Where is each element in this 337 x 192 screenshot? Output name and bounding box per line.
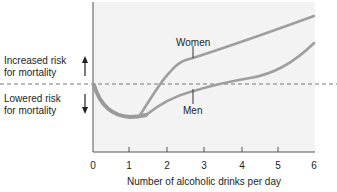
x-tick-label-2: 2: [164, 160, 170, 171]
x-tick-label-4: 4: [239, 160, 245, 171]
x-tick-label-0: 0: [90, 160, 96, 171]
x-tick-label-5: 5: [275, 160, 281, 171]
lowered-risk-label-line2: for mortality: [4, 105, 56, 117]
x-axis-title: Number of alcoholic drinks per day: [127, 176, 281, 188]
women-series-label: Women: [176, 37, 210, 49]
x-tick-label-1: 1: [126, 160, 132, 171]
x-tick-label-3: 3: [201, 160, 207, 171]
men-series-label: Men: [183, 105, 202, 117]
plot-area: [93, 2, 315, 152]
up-arrow-icon: [82, 56, 88, 76]
lowered-risk-label-line1: Lowered risk: [4, 93, 61, 105]
increased-risk-label-line1: Increased risk: [4, 55, 66, 67]
x-tick-label-6: 6: [311, 160, 317, 171]
increased-risk-label-line2: for mortality: [4, 67, 56, 79]
down-arrow-icon: [82, 94, 88, 114]
